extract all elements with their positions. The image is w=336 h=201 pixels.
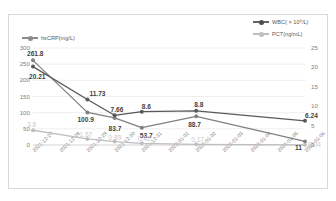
series-point[interactable] bbox=[194, 109, 198, 113]
series-point[interactable] bbox=[31, 128, 35, 132]
y-axis-right-tick: 20 bbox=[311, 64, 333, 70]
legend-marker-pct-icon bbox=[253, 33, 269, 35]
legend-marker-hscrp-icon bbox=[22, 37, 38, 39]
series-point[interactable] bbox=[113, 113, 117, 117]
series-point[interactable] bbox=[140, 126, 144, 130]
series-point[interactable] bbox=[85, 97, 89, 101]
data-point-label: 100.9 bbox=[77, 116, 94, 123]
series-point[interactable] bbox=[31, 65, 35, 69]
plot-area bbox=[33, 48, 305, 145]
legend-item-wbc[interactable]: WBC( × 10⁹/L) bbox=[253, 19, 308, 25]
data-point-label: 11 bbox=[295, 144, 302, 151]
legend-item-hscrp[interactable]: hsCRP(mg/L) bbox=[22, 35, 75, 41]
legend-label-pct: PCT(ng/mL) bbox=[272, 31, 302, 37]
data-point-label: 8.8 bbox=[194, 101, 203, 108]
data-point-label: 6.24 bbox=[305, 112, 318, 119]
data-point-label: 3.8 bbox=[27, 121, 36, 128]
y-axis-right-tick: 25 bbox=[311, 45, 333, 51]
series-line bbox=[33, 60, 305, 141]
data-point-label: 20.21 bbox=[29, 73, 46, 80]
series-point[interactable] bbox=[85, 110, 89, 114]
data-point-label: 83.7 bbox=[109, 125, 122, 132]
data-point-label: 0.42 bbox=[138, 135, 151, 142]
data-point-label: 0.04 bbox=[308, 141, 321, 148]
data-point-label: 0.17 bbox=[191, 136, 204, 143]
chart-container: hsCRP(mg/L) WBC( × 10⁹/L) PCT(ng/mL) 050… bbox=[0, 0, 336, 201]
series-point[interactable] bbox=[303, 143, 307, 147]
y-axis-right-tick: 10 bbox=[311, 103, 333, 109]
legend-marker-wbc-icon bbox=[253, 21, 269, 23]
y-axis-right-tick: 5 bbox=[311, 123, 333, 129]
legend-item-pct[interactable]: PCT(ng/mL) bbox=[253, 31, 302, 37]
series-point[interactable] bbox=[140, 110, 144, 114]
data-point-label: 88.7 bbox=[188, 121, 201, 128]
legend-label-wbc: WBC( × 10⁹/L) bbox=[272, 19, 308, 25]
data-point-label: 0.89 bbox=[109, 134, 122, 141]
y-axis-left-tick: 250 bbox=[8, 61, 30, 67]
series-point[interactable] bbox=[194, 114, 198, 118]
data-point-label: 11.73 bbox=[89, 90, 105, 97]
series-point[interactable] bbox=[303, 139, 307, 143]
y-axis-right-tick: 15 bbox=[311, 84, 333, 90]
series-point[interactable] bbox=[303, 119, 307, 123]
data-point-label: 7.66 bbox=[111, 106, 124, 113]
series-canvas bbox=[33, 48, 305, 145]
y-axis-left-tick: 100 bbox=[8, 110, 30, 116]
legend-label-hscrp: hsCRP(mg/L) bbox=[41, 35, 75, 41]
data-point-label: 261.8 bbox=[27, 50, 44, 57]
y-axis-left-tick: 200 bbox=[8, 77, 30, 83]
y-axis-left-tick: 150 bbox=[8, 94, 30, 100]
data-point-label: 8.6 bbox=[142, 103, 151, 110]
series-point[interactable] bbox=[31, 58, 35, 62]
y-axis-left-tick: 0 bbox=[8, 142, 30, 148]
data-point-label: 1.57 bbox=[79, 131, 92, 138]
